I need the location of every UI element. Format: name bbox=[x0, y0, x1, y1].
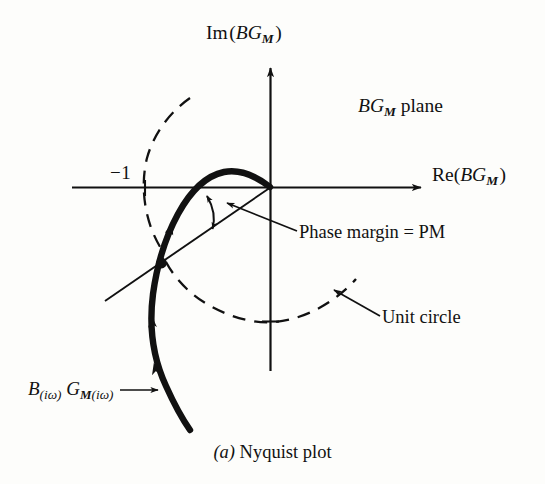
plane-label: BGM plane bbox=[358, 95, 443, 120]
unit-circle-upper-arc bbox=[144, 98, 190, 250]
plane-word: plane bbox=[401, 95, 443, 116]
unit-circle-lower-arc bbox=[166, 262, 356, 322]
phase-margin-angle-arrow bbox=[207, 196, 214, 229]
plane-subscript: M bbox=[384, 104, 396, 119]
caption-text: Nyquist plot bbox=[240, 442, 332, 462]
im-prefix: Im bbox=[206, 22, 228, 43]
curve-g-argument: (iω) bbox=[92, 387, 114, 402]
phase-margin-label: Phase margin = PM bbox=[299, 222, 445, 243]
nyquist-curve bbox=[152, 171, 270, 430]
curve-b-var: B bbox=[28, 378, 40, 399]
minus-one-label: −1 bbox=[110, 162, 131, 184]
phase-margin-leader bbox=[227, 203, 297, 231]
curve-b-subscript: (iω) bbox=[40, 387, 62, 402]
im-var: BG bbox=[236, 22, 262, 43]
re-var: BG bbox=[460, 164, 486, 185]
nyquist-plot-canvas bbox=[0, 0, 545, 484]
real-axis-label: Re(BGM ) bbox=[432, 164, 506, 189]
re-prefix: Re bbox=[432, 164, 454, 185]
curve-g-subscript: M bbox=[80, 387, 91, 402]
re-subscript: M bbox=[486, 173, 498, 188]
unit-circle-leader bbox=[334, 290, 380, 316]
imaginary-axis-label: Im (BGM ) bbox=[206, 22, 282, 47]
curve-g-var: G bbox=[66, 378, 80, 399]
caption-prefix: (a) bbox=[213, 442, 235, 462]
re-paren-close: ) bbox=[500, 164, 507, 185]
im-paren-close: ) bbox=[275, 22, 282, 43]
curve-label: B(iω) GM(iω) bbox=[28, 378, 113, 403]
nyquist-plot-figure: Im (BGM ) Re(BGM ) BGM plane −1 Phase ma… bbox=[0, 0, 545, 484]
phase-margin-ray bbox=[105, 187, 271, 301]
unit-circle-label: Unit circle bbox=[382, 307, 461, 328]
plane-var: BG bbox=[358, 95, 384, 116]
figure-caption: (a) Nyquist plot bbox=[0, 442, 545, 463]
im-subscript: M bbox=[262, 31, 274, 46]
gain-crossover-point bbox=[156, 258, 167, 269]
